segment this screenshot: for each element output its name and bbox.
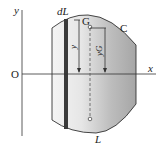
x-axis-label: x — [147, 62, 153, 74]
y-distance-label: y — [68, 45, 78, 50]
centroid-label: G — [82, 15, 90, 27]
centroid-diagram: y x O dL G C y yG L — [0, 0, 166, 149]
strip-label: dL — [57, 5, 69, 17]
curve-label: C — [120, 22, 127, 34]
origin-label: O — [11, 68, 19, 80]
axis-L-label: L — [94, 133, 101, 145]
y-axis-label: y — [13, 4, 19, 16]
axis-L-end-point — [88, 117, 92, 121]
yg-distance-label: yG — [94, 45, 104, 57]
